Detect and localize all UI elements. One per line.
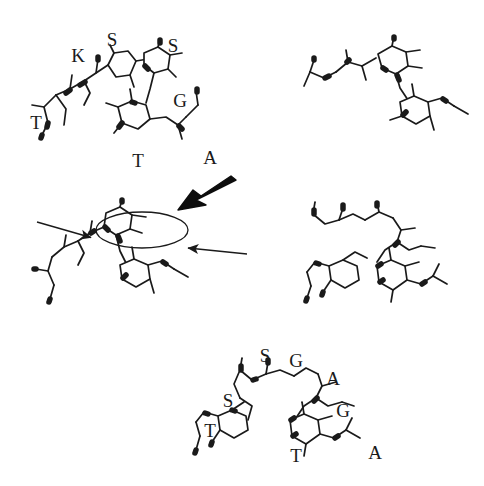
- molecular-structure-middle-right: [305, 200, 480, 320]
- molecular-structure-middle-left-annotated: [30, 205, 220, 315]
- structure-drawing-top-right: [300, 50, 480, 160]
- residue-label: A: [368, 443, 382, 462]
- molecular-structure-top-right: [300, 50, 480, 160]
- structure-drawing-bottom: [232, 358, 417, 478]
- residue-label: S: [168, 36, 179, 55]
- structure-drawing-middle-right: [305, 200, 480, 320]
- residue-label: T: [30, 113, 42, 132]
- residue-label: S: [223, 391, 234, 410]
- residue-label: A: [203, 148, 217, 167]
- residue-label: A: [326, 369, 340, 388]
- residue-label: S: [107, 30, 118, 49]
- molecular-figure: KSSGTTASGASGTTA: [0, 0, 484, 486]
- residue-label: T: [290, 446, 302, 465]
- structure-drawing-middle-left: [30, 205, 220, 315]
- residue-label: G: [336, 401, 350, 420]
- residue-label: G: [173, 91, 187, 110]
- residue-label: K: [71, 46, 85, 65]
- molecular-structure-bottom: [232, 358, 417, 478]
- residue-label: G: [289, 351, 303, 370]
- residue-label: T: [132, 151, 144, 170]
- residue-label: S: [260, 346, 271, 365]
- residue-label: T: [204, 421, 216, 440]
